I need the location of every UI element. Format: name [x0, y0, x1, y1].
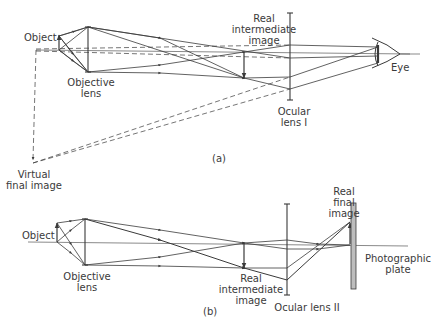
- label-objective-lens-b: Objective lens: [60, 271, 114, 293]
- label-photographic-plate-b: Photographic plate: [358, 253, 438, 275]
- intermediate-rays-b: [85, 219, 287, 280]
- eye-rays-a: [290, 45, 378, 89]
- object-rays-a: [59, 27, 88, 72]
- label-real-intermediate-image-a: Real intermediate image: [227, 13, 301, 46]
- label-object-b: Object: [22, 230, 55, 241]
- final-rays-b: [287, 222, 350, 280]
- label-eye-a: Eye: [391, 62, 409, 73]
- objective-lens-a: [85, 27, 91, 72]
- optical-axis-a: [36, 50, 410, 54]
- label-real-final-image-b: Real final image: [324, 186, 364, 219]
- label-object-a: Object: [24, 32, 57, 43]
- caption-a: (a): [212, 153, 226, 164]
- label-objective-lens-a: Objective lens: [64, 77, 118, 99]
- object-rays-b: [57, 219, 85, 265]
- label-ocular-lens-a: Ocular lens I: [274, 106, 314, 128]
- label-virtual-final-image-a: Virtual final image: [4, 169, 64, 191]
- label-ocular-lens-b: Ocular lens II: [270, 302, 344, 313]
- objective-lens-b: [82, 219, 88, 265]
- caption-b: (b): [203, 306, 217, 317]
- virtual-rays-a: [33, 45, 290, 163]
